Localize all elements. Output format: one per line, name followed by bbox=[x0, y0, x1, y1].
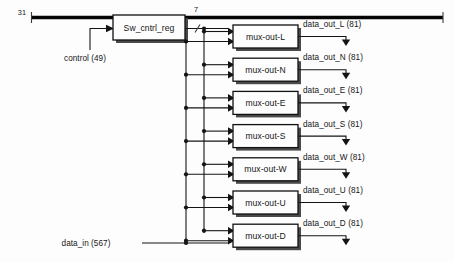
mux-upper-input-junction-dot bbox=[202, 96, 206, 100]
mux-output-wire bbox=[298, 169, 346, 173]
mux-lower-input-junction-dot bbox=[184, 106, 188, 110]
mux-output-wire bbox=[298, 136, 346, 140]
mux-lower-input-junction-dot bbox=[184, 39, 188, 43]
mux-output-label: data_out_U (81) bbox=[303, 186, 363, 195]
sw-cntrl-reg-label: Sw_cntrl_reg bbox=[124, 23, 175, 33]
block-diagram: 31 control (49) Sw_cntrl_reg 7 bbox=[0, 0, 454, 262]
control-input-wire bbox=[90, 29, 106, 51]
mux-output-wire bbox=[298, 236, 346, 240]
mux-box-label: mux-out-U bbox=[245, 198, 286, 208]
mux-output-arrowhead bbox=[342, 239, 350, 246]
mux-upper-input-junction-dot bbox=[202, 229, 206, 233]
mux-row: mux-out-Ndata_out_N (81) bbox=[184, 53, 363, 84]
mux-output-wire bbox=[298, 70, 346, 74]
mux-row: mux-out-Ldata_out_L (81) bbox=[184, 20, 362, 51]
mux-lower-input-junction-dot bbox=[184, 205, 188, 209]
mux-block-layer: mux-out-Ldata_out_L (81)mux-out-Ndata_ou… bbox=[184, 20, 365, 250]
mux-row: mux-out-Sdata_out_S (81) bbox=[184, 120, 363, 151]
top-bus-label: 31 bbox=[18, 8, 26, 17]
mux-output-wire bbox=[298, 203, 346, 207]
mux-box-label: mux-out-N bbox=[245, 65, 286, 75]
control-input-group: control (49) bbox=[64, 25, 114, 63]
mux-output-arrowhead bbox=[342, 40, 350, 47]
mux-upper-input-junction-dot bbox=[202, 129, 206, 133]
bus-width-label: 7 bbox=[194, 5, 198, 14]
mux-lower-input-junction-dot bbox=[184, 239, 188, 243]
control-input-label: control (49) bbox=[64, 54, 106, 63]
mux-row: mux-out-Edata_out_E (81) bbox=[184, 86, 363, 117]
diagram-canvas: 31 control (49) Sw_cntrl_reg 7 bbox=[0, 0, 454, 262]
mux-output-label: data_out_N (81) bbox=[303, 53, 363, 62]
mux-box-label: mux-out-W bbox=[244, 164, 287, 174]
mux-output-label: data_out_D (81) bbox=[303, 219, 363, 228]
data-in-label: data_in (567) bbox=[62, 239, 111, 248]
mux-output-label: data_out_E (81) bbox=[303, 86, 363, 95]
mux-lower-input-junction-dot bbox=[184, 73, 188, 77]
mux-box-label: mux-out-D bbox=[245, 231, 286, 241]
mux-lower-input-junction-dot bbox=[184, 172, 188, 176]
sw-cntrl-reg-block: Sw_cntrl_reg bbox=[113, 15, 188, 43]
mux-upper-input-junction-dot bbox=[202, 162, 206, 166]
mux-row: mux-out-Ddata_out_D (81) bbox=[184, 219, 363, 250]
mux-row: mux-out-Udata_out_U (81) bbox=[184, 186, 363, 217]
distribution-bus-group bbox=[186, 26, 206, 243]
mux-box-label: mux-out-E bbox=[245, 98, 285, 108]
mux-output-label: data_out_S (81) bbox=[303, 120, 363, 129]
mux-row: mux-out-Wdata_out_W (81) bbox=[184, 153, 365, 184]
mux-upper-input-junction-dot bbox=[202, 29, 206, 33]
mux-output-arrowhead bbox=[342, 172, 350, 179]
mux-output-arrowhead bbox=[342, 206, 350, 213]
mux-output-label: data_out_W (81) bbox=[303, 153, 365, 162]
mux-lower-input-junction-dot bbox=[184, 139, 188, 143]
mux-upper-input-junction-dot bbox=[202, 63, 206, 67]
mux-output-label: data_out_L (81) bbox=[303, 20, 361, 29]
mux-box-label: mux-out-S bbox=[245, 131, 285, 141]
mux-output-arrowhead bbox=[342, 73, 350, 80]
mux-upper-input-junction-dot bbox=[202, 195, 206, 199]
mux-output-arrowhead bbox=[342, 139, 350, 146]
mux-output-wire bbox=[298, 103, 346, 107]
top-bus-group: 31 bbox=[18, 8, 443, 23]
mux-output-wire bbox=[298, 37, 346, 41]
mux-box-label: mux-out-L bbox=[246, 32, 285, 42]
mux-output-arrowhead bbox=[342, 106, 350, 113]
